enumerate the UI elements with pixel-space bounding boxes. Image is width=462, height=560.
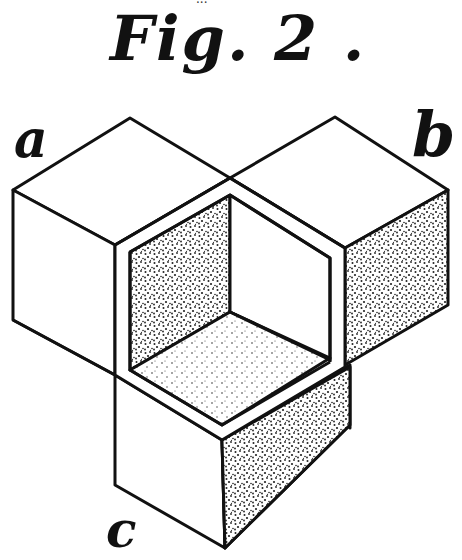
label-c: c <box>106 500 136 559</box>
label-a: a <box>14 108 48 169</box>
cube-diagram <box>0 0 462 560</box>
label-b: b <box>412 98 455 171</box>
